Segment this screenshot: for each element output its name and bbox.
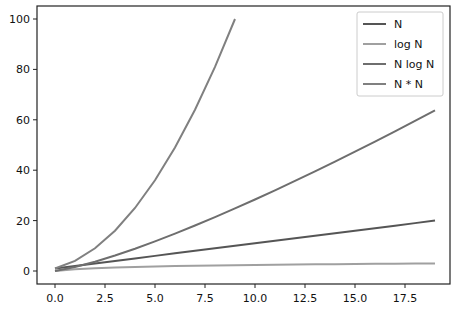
legend-label: N — [394, 18, 402, 31]
x-tick-label: 15.0 — [343, 292, 368, 305]
legend: Nlog NN log NN * N — [357, 12, 443, 96]
y-axis: 020406080100 — [9, 13, 37, 278]
x-tick-label: 2.5 — [96, 292, 114, 305]
y-tick-label: 80 — [16, 63, 30, 76]
legend-label: N * N — [394, 78, 423, 91]
x-tick-label: 17.5 — [393, 292, 418, 305]
x-tick-label: 7.5 — [196, 292, 214, 305]
x-tick-label: 12.5 — [293, 292, 318, 305]
x-axis: 0.02.55.07.510.012.515.017.5 — [46, 284, 417, 305]
y-tick-label: 20 — [16, 215, 30, 228]
y-tick-label: 60 — [16, 114, 30, 127]
x-tick-label: 5.0 — [146, 292, 164, 305]
y-tick-label: 40 — [16, 164, 30, 177]
y-tick-label: 100 — [9, 13, 30, 26]
x-tick-label: 10.0 — [243, 292, 268, 305]
legend-label: log N — [394, 38, 423, 51]
chart: 020406080100 0.02.55.07.510.012.515.017.… — [0, 0, 458, 317]
y-tick-label: 0 — [23, 265, 30, 278]
x-tick-label: 0.0 — [46, 292, 64, 305]
legend-label: N log N — [394, 58, 434, 71]
